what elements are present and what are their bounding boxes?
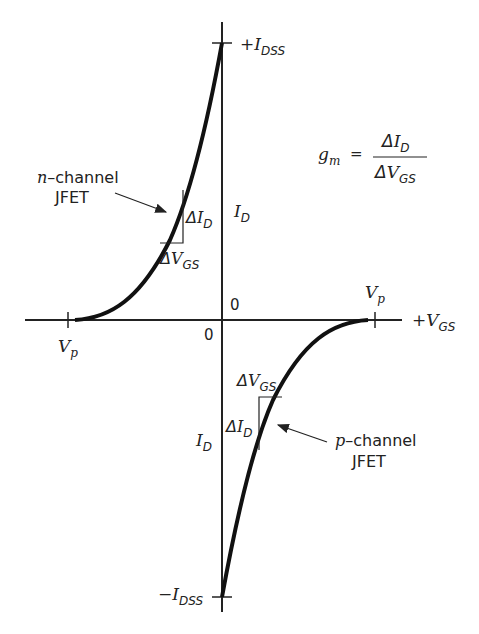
vgs-axis-label: +VGS	[412, 310, 456, 334]
vp-right-label: Vp	[365, 282, 385, 306]
p-channel-label-2: JFET	[351, 452, 386, 471]
plus-idss-label: +IDSS	[240, 34, 285, 58]
minus-idss-label: −IDSS	[158, 584, 203, 608]
vp-left-label: Vp	[58, 336, 78, 360]
p-channel-curve	[222, 320, 368, 597]
n-channel-label-2: JFET	[54, 188, 89, 207]
id-label-lower: ID	[195, 430, 212, 454]
jfet-transfer-diagram: +IDSS −IDSS gm = ΔID Δ+VVGS n–channel JF…	[0, 0, 479, 634]
id-label-upper: ID	[233, 201, 250, 225]
n-channel-arrow	[115, 193, 166, 212]
zero-label-lower: 0	[204, 326, 214, 344]
n-channel-label-1: n–channel	[37, 168, 119, 187]
n-delta-id: ΔID	[184, 208, 213, 231]
gm-numerator: ΔID	[380, 131, 410, 155]
p-channel-arrow	[278, 425, 327, 442]
zero-label-upper: 0	[230, 296, 240, 314]
gm-equals: =	[350, 145, 363, 163]
p-delta-vgs: ΔVGS	[235, 371, 277, 394]
gm-label: gm	[318, 144, 340, 168]
n-delta-vgs: ΔVGS	[158, 249, 200, 272]
p-delta-id: ΔID	[224, 417, 253, 440]
p-channel-label-1: p–channel	[335, 431, 417, 450]
gm-denominator: Δ+VVGS	[373, 162, 416, 186]
